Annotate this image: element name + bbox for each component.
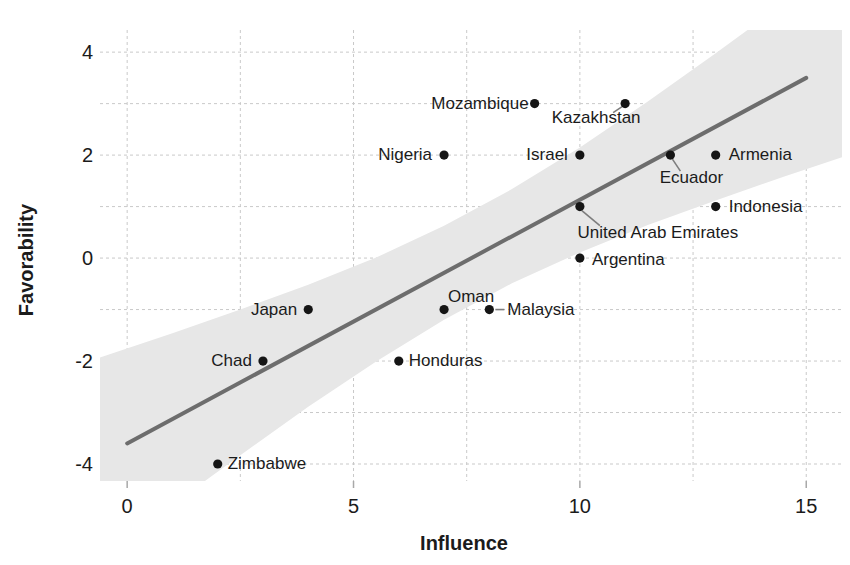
x-tick-label: 10: [569, 495, 591, 517]
y-axis-title: Favorability: [15, 203, 37, 316]
x-tick-label: 0: [122, 495, 133, 517]
data-point-israel: [575, 151, 584, 160]
confidence-band-area: [100, 0, 842, 559]
point-label-indonesia: Indonesia: [729, 197, 803, 216]
point-label-chad: Chad: [211, 351, 252, 370]
confidence-band: [100, 0, 842, 559]
point-label-zimbabwe: Zimbabwe: [228, 454, 306, 473]
y-tick-label: -4: [75, 453, 93, 475]
data-point-nigeria: [439, 151, 448, 160]
point-label-japan: Japan: [251, 300, 297, 319]
point-label-kazakhstan: Kazakhstan: [552, 108, 641, 127]
data-point-indonesia: [711, 202, 720, 211]
point-label-argentina: Argentina: [592, 250, 665, 269]
y-tick-label: 0: [82, 247, 93, 269]
x-tick-label: 5: [348, 495, 359, 517]
data-point-mozambique: [530, 99, 539, 108]
axis-ticks: [127, 481, 806, 488]
scatter-chart: MozambiqueKazakhstanNigeriaIsraelEcuador…: [0, 0, 850, 565]
data-point-armenia: [711, 151, 720, 160]
scatter-plot-figure: MozambiqueKazakhstanNigeriaIsraelEcuador…: [0, 0, 850, 565]
data-point-zimbabwe: [213, 459, 222, 468]
data-point-oman: [439, 305, 448, 314]
data-point-malaysia: [485, 305, 494, 314]
point-label-nigeria: Nigeria: [378, 145, 432, 164]
point-label-oman: Oman: [448, 287, 494, 306]
data-point-united-arab-emirates: [575, 202, 584, 211]
data-point-argentina: [575, 253, 584, 262]
point-label-ecuador: Ecuador: [660, 168, 724, 187]
y-tick-label: -2: [75, 350, 93, 372]
y-tick-label: 4: [82, 41, 93, 63]
data-point-ecuador: [666, 151, 675, 160]
point-label-malaysia: Malaysia: [507, 300, 575, 319]
point-label-israel: Israel: [526, 145, 568, 164]
point-label-armenia: Armenia: [729, 145, 793, 164]
point-label-united-arab-emirates: United Arab Emirates: [578, 223, 739, 242]
point-label-mozambique: Mozambique: [431, 94, 528, 113]
data-point-japan: [304, 305, 313, 314]
y-tick-label: 2: [82, 144, 93, 166]
x-tick-label: 15: [795, 495, 817, 517]
data-point-honduras: [394, 356, 403, 365]
data-point-chad: [258, 356, 267, 365]
x-axis-title: Influence: [420, 532, 508, 554]
point-label-honduras: Honduras: [409, 351, 483, 370]
